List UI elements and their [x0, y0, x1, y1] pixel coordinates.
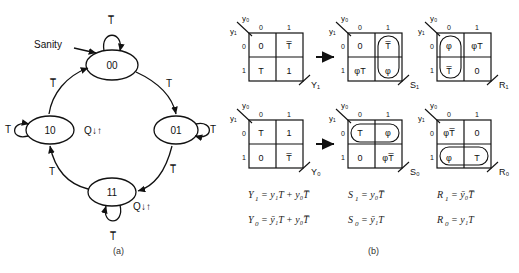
- caption-b: (b): [368, 246, 379, 256]
- kmap-col-header-0: 0: [447, 111, 451, 118]
- kmap-cell-01: 0: [474, 128, 479, 138]
- self-loop-label-01: T: [210, 124, 216, 135]
- kmap-S0[interactable]: y₀ y₁ 0 1 0 1 T φ 0 φT̅ S₀: [329, 101, 420, 177]
- kmap-cell-00: 0: [357, 41, 362, 51]
- equation-S0-sub: 0: [355, 220, 359, 228]
- kmap-row-axis-label: y₁: [418, 114, 425, 123]
- transition-10-to-00: [49, 68, 88, 114]
- self-loop-label-00: T̅: [108, 15, 114, 26]
- kmap-cell-01: φT: [471, 41, 483, 51]
- kmap-row-axis-label: y₁: [418, 27, 425, 36]
- kmap-col-axis-label: y₀: [242, 101, 249, 110]
- kmap-output-label: S₀: [410, 167, 420, 177]
- self-loop-00: [104, 35, 121, 51]
- kmap-cell-01: T̅: [286, 41, 292, 51]
- self-loop-11: [105, 205, 120, 221]
- kmap-col-header-0: 0: [358, 111, 362, 118]
- kmap-row-header-1: 1: [341, 67, 345, 74]
- equation-R1: R 1 = ȳ₀T̅: [436, 189, 475, 203]
- equation-R0-rhs: = y₁T: [451, 214, 475, 225]
- kmap-row-header-0: 0: [242, 43, 246, 50]
- kmap-col-axis-label: y₀: [430, 14, 437, 23]
- equations-group: Y 1 = y₁T + y₀T̅ Y 0 = ȳ₁T + y₀T̅ S 1 = …: [248, 189, 475, 228]
- kmap-cell-01: φ: [385, 128, 391, 138]
- equation-R1-rhs: = ȳ₀T̅: [451, 189, 475, 200]
- kmap-row-header-0: 0: [341, 130, 345, 137]
- equation-Y1-rhs: = y₁T + y₀T̅: [261, 189, 310, 200]
- kmap-cell-10: φT: [354, 66, 366, 76]
- kmap-cell-00: T: [258, 128, 264, 138]
- kmap-col-header-0: 0: [259, 111, 263, 118]
- figure-root: 00 T̅ 01 T 11 T̅ Q↓↑ 10 T Q↓↑ T T̅ T: [0, 0, 519, 273]
- kmap-cell-10: 0: [258, 153, 263, 163]
- transition-label-10-00: T̅: [50, 78, 56, 89]
- equation-Y0-lhs: Y: [248, 214, 255, 225]
- kmap-output-label: S₁: [410, 80, 419, 90]
- sanity-label: Sanity: [34, 39, 62, 50]
- equation-Y0-rhs: = ȳ₁T + y₀T̅: [261, 214, 310, 225]
- kmap-R0[interactable]: y₀ y₁ 0 1 0 1 φT̅ 0 φ T R₀: [418, 101, 509, 177]
- kmap-output-label: R₁: [499, 80, 509, 90]
- equation-S0-lhs: S: [348, 214, 353, 225]
- state-diagram-group: 00 T̅ 01 T 11 T̅ Q↓↑ 10 T Q↓↑ T T̅ T: [5, 15, 216, 242]
- equation-Y1-sub: 1: [255, 195, 259, 203]
- kmap-col-header-1: 1: [386, 111, 390, 118]
- transition-11-to-10: [50, 146, 88, 189]
- kmap-col-header-0: 0: [447, 24, 451, 31]
- kmap-col-header-1: 1: [287, 111, 291, 118]
- kmap-cell-11: T: [474, 153, 480, 163]
- kmap-cell-10: T̅: [446, 66, 452, 76]
- transition-label-11-10: T: [49, 166, 55, 177]
- transition-label-00-01: T: [166, 78, 172, 89]
- self-loop-label-11: T̅: [110, 231, 116, 242]
- kmap-row-header-0: 0: [430, 130, 434, 137]
- kmap-cell-01: 1: [286, 128, 291, 138]
- transition-label-01-11: T̅: [170, 164, 176, 175]
- equation-S1-lhs: S: [348, 189, 353, 200]
- kmap-col-header-1: 1: [386, 24, 390, 31]
- kmap-Y1[interactable]: y₀ y₁ 0 1 0 1 0 T̅ T 1 Y₁: [230, 14, 320, 90]
- output-label-11: Q↓↑: [133, 201, 151, 212]
- kmap-output-label: Y₁: [311, 80, 320, 90]
- equation-Y1: Y 1 = y₁T + y₀T̅: [248, 189, 310, 203]
- equation-R0-sub: 0: [445, 220, 449, 228]
- equation-S1-sub: 1: [355, 195, 359, 203]
- kmap-col-axis-label: y₀: [242, 14, 249, 23]
- kmap-row-axis-label: y₁: [230, 27, 237, 36]
- state-label-01: 01: [170, 125, 182, 136]
- kmap-R1[interactable]: y₀ y₁ 0 1 0 1 φ φT T̅ 0 R₁: [418, 14, 509, 90]
- output-label-10: Q↓↑: [84, 125, 102, 136]
- state-label-00: 00: [106, 60, 118, 71]
- kmap-cell-10: φ: [446, 153, 452, 163]
- kmap-Y0[interactable]: y₀ y₁ 0 1 0 1 T 1 0 T̅ Y₀: [230, 101, 321, 177]
- kmap-S1[interactable]: y₀ y₁ 0 1 0 1 0 T̅ φT φ S₁: [329, 14, 419, 90]
- kmap-group: y₀ y₁ 0 1 0 1 0 T̅ T 1 Y₁ y₀ y₁ 0 1 0 1 …: [230, 14, 509, 177]
- transition-01-to-11: [138, 146, 172, 191]
- kmap-col-header-0: 0: [259, 24, 263, 31]
- kmap-cell-10: 0: [357, 153, 362, 163]
- kmap-cell-11: φ: [385, 66, 391, 76]
- kmap-col-header-0: 0: [358, 24, 362, 31]
- figure-svg: 00 T̅ 01 T 11 T̅ Q↓↑ 10 T Q↓↑ T T̅ T: [0, 0, 519, 273]
- self-loop-label-10: T: [5, 124, 11, 135]
- equation-Y1-lhs: Y: [248, 189, 255, 200]
- equation-S1-rhs: = y₀T̅: [361, 189, 385, 200]
- equation-S1: S 1 = y₀T̅: [348, 189, 385, 203]
- kmap-cell-11: 0: [474, 66, 479, 76]
- equation-R0: R 0 = y₁T: [436, 214, 475, 228]
- kmap-row-header-1: 1: [242, 67, 246, 74]
- kmap-row-header-1: 1: [341, 154, 345, 161]
- state-label-10: 10: [44, 125, 56, 136]
- kmap-cell-00: T: [357, 128, 363, 138]
- kmap-row-header-0: 0: [242, 130, 246, 137]
- kmap-row-header-0: 0: [341, 43, 345, 50]
- kmap-col-header-1: 1: [475, 111, 479, 118]
- kmap-row-header-0: 0: [430, 43, 434, 50]
- kmap-cell-00: φ: [446, 41, 452, 51]
- kmap-row-header-1: 1: [242, 154, 246, 161]
- kmap-cell-10: T: [258, 66, 264, 76]
- equation-Y0-sub: 0: [255, 220, 259, 228]
- kmap-cell-00: φT̅: [443, 128, 455, 138]
- equation-R1-lhs: R: [436, 189, 443, 200]
- kmap-col-axis-label: y₀: [341, 101, 348, 110]
